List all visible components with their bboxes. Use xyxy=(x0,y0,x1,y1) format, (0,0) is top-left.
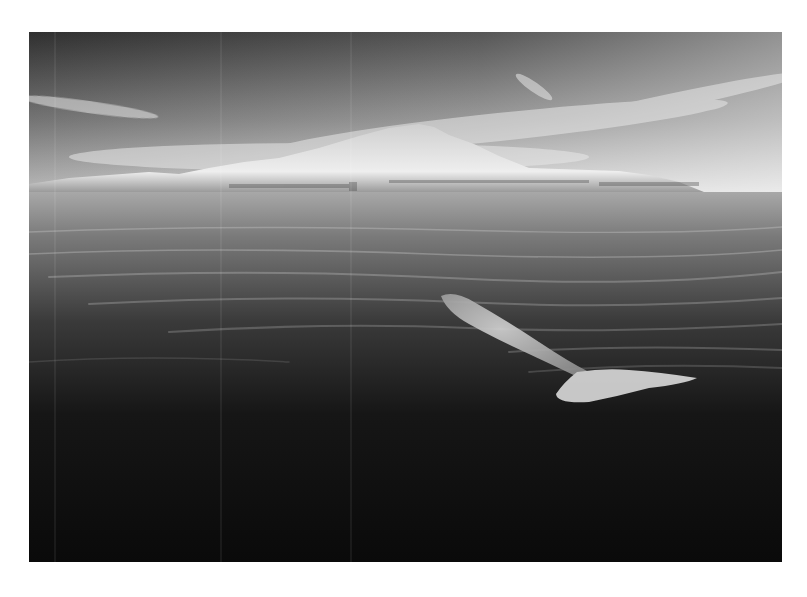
whale-photograph xyxy=(29,32,782,562)
photo-canvas xyxy=(29,32,782,562)
